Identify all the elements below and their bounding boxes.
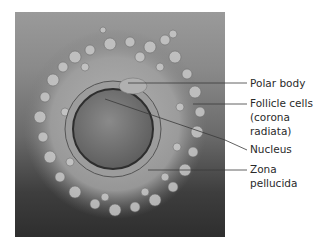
label-follicle-cells-line3: radiata) <box>250 125 291 138</box>
label-polar-body: Polar body <box>250 77 305 90</box>
label-zona-pellucida-line2: pellucida <box>250 177 297 190</box>
label-follicle-cells: Follicle cells <box>250 97 313 110</box>
label-nucleus: Nucleus <box>250 143 292 156</box>
micrograph-drawing <box>15 12 225 237</box>
label-follicle-cells-line2: (corona <box>250 111 290 124</box>
label-zona-pellucida: Zona <box>250 163 277 176</box>
oocyte-micrograph <box>15 12 225 237</box>
